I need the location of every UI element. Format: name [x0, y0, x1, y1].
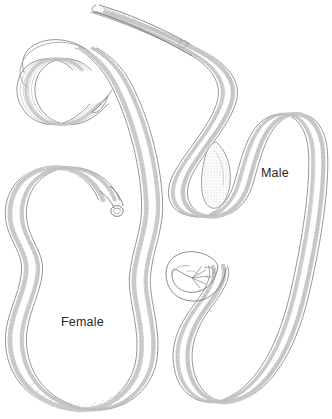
male-worm — [91, 5, 328, 402]
nematode-figure: Female Male — [0, 0, 332, 419]
male-intestine-band — [95, 12, 313, 402]
specimen-label-female: Female — [61, 315, 104, 329]
female-body-tube — [16, 48, 152, 410]
male-seminal-vesicle — [201, 142, 230, 208]
worm-illustration-svg — [0, 0, 332, 419]
specimen-label-male: Male — [261, 166, 289, 180]
illustration-ink — [5, 5, 327, 410]
male-tail-spicules — [166, 252, 226, 312]
female-worm — [5, 40, 162, 410]
